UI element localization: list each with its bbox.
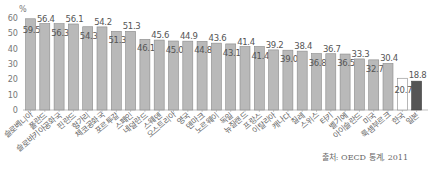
bar-value-label: 39.0: [280, 54, 298, 64]
bar-value-label: 56.1: [66, 14, 84, 24]
bar-value-label: 51.3: [123, 21, 141, 31]
bar-value-label: 59.5: [23, 25, 41, 35]
bar-value-label: 32.7: [366, 64, 384, 74]
bar-value-label: 30.4: [380, 53, 398, 63]
bar: [326, 54, 336, 110]
y-tick-label: 0: [13, 105, 18, 115]
bar-value-label: 43.1: [223, 48, 241, 58]
bar: [40, 24, 50, 110]
bar-value-label: 54.3: [80, 31, 98, 41]
bar-value-label: 44.8: [194, 45, 212, 55]
bar: [183, 41, 193, 110]
bar: [211, 43, 221, 110]
bar-value-label: 41.4: [251, 51, 269, 61]
bar-value-label: 54.2: [94, 17, 112, 27]
bar: [383, 63, 393, 110]
bar-value-label: 45.6: [151, 30, 169, 40]
x-axis-labels: 슬로베니아폴란드슬로바키아공화국핀란드헝가리체코공화국포르투갈스페인네덜란드스웨…: [2, 109, 421, 153]
bar-value-label: 36.7: [323, 44, 341, 54]
bar: [297, 51, 307, 110]
bars: 59.556.456.356.154.354.251.351.346.145.6…: [23, 14, 427, 112]
bar-value-label: 41.4: [237, 37, 255, 47]
bar-value-label: 36.8: [309, 58, 327, 68]
y-tick-label: 30: [8, 59, 18, 69]
y-tick-label: 60: [8, 13, 18, 23]
bar-value-label: 44.9: [180, 31, 198, 41]
bar-value-label: 20.7: [394, 85, 412, 95]
bar-value-label: 43.6: [209, 33, 227, 43]
bar-value-label: 33.3: [352, 49, 370, 59]
source-note: 출처: OECD 통계, 2011: [322, 151, 408, 162]
bar-value-label: 18.8: [409, 70, 427, 80]
bar-value-label: 46.1: [137, 43, 155, 53]
bar-chart: 0102030405060% 59.556.456.356.154.354.25…: [0, 0, 430, 173]
y-tick-label: 10: [8, 90, 18, 100]
bar: [126, 31, 136, 110]
bar: [240, 47, 250, 110]
y-tick-label: 20: [8, 74, 18, 84]
bar: [68, 24, 78, 110]
bar-value-label: 38.4: [294, 41, 312, 51]
category-label: 룩셈부르크: [360, 111, 393, 140]
bar: [154, 40, 164, 110]
category-label: 일본: [404, 111, 421, 127]
bar: [269, 50, 279, 110]
bar-value-label: 39.2: [266, 40, 284, 50]
y-unit-label: %: [19, 4, 27, 14]
bar: [354, 59, 364, 110]
bar-value-label: 45.0: [166, 45, 184, 55]
bar-value-label: 56.3: [51, 28, 69, 38]
y-tick-label: 50: [8, 28, 18, 38]
bar-value-label: 56.4: [37, 14, 55, 24]
bar-value-label: 36.5: [337, 58, 355, 68]
bar: [412, 81, 422, 110]
bar: [97, 27, 107, 110]
y-tick-label: 40: [8, 44, 18, 54]
bar-value-label: 51.3: [108, 35, 126, 45]
